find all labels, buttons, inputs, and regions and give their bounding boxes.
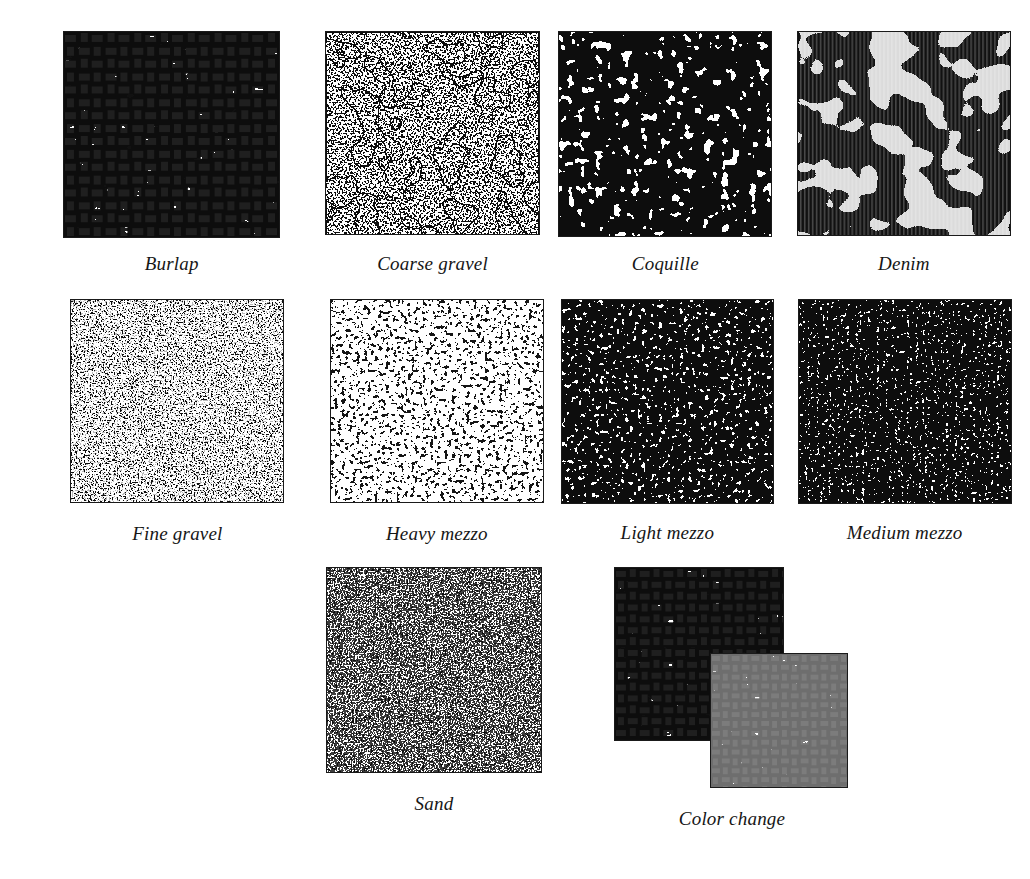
texture-label-medium-mezzo: Medium mezzo <box>847 522 963 544</box>
texture-sample-sheet: Burlap <box>0 0 1030 879</box>
texture-swatch-light-mezzo[interactable] <box>561 299 774 504</box>
heavy-mezzo-pattern-icon <box>331 300 543 502</box>
texture-label-fine-gravel: Fine gravel <box>132 523 222 545</box>
coquille-pattern-icon <box>559 32 771 236</box>
texture-cell-burlap[interactable]: Burlap <box>31 31 312 275</box>
texture-swatch-color-change-front[interactable] <box>710 653 848 788</box>
sand-pattern-icon <box>327 568 541 772</box>
texture-label-sand: Sand <box>415 793 454 815</box>
texture-cell-color-change[interactable]: Color change <box>582 567 882 830</box>
texture-cell-coarse-gravel[interactable]: Coarse gravel <box>312 31 553 275</box>
texture-swatch-heavy-mezzo[interactable] <box>330 299 544 503</box>
texture-label-color-change: Color change <box>679 808 785 830</box>
texture-label-denim: Denim <box>878 253 930 275</box>
row-left-spacer <box>0 299 37 545</box>
texture-label-coarse-gravel: Coarse gravel <box>377 253 488 275</box>
texture-cell-heavy-mezzo[interactable]: Heavy mezzo <box>318 299 555 545</box>
texture-label-burlap: Burlap <box>145 253 199 275</box>
texture-cell-sand[interactable]: Sand <box>286 567 582 830</box>
texture-swatch-sand[interactable] <box>326 567 542 773</box>
texture-swatch-medium-mezzo[interactable] <box>798 299 1012 504</box>
texture-swatch-burlap[interactable] <box>63 31 280 238</box>
medium-mezzo-pattern-icon <box>799 300 1011 503</box>
coarse-gravel-pattern-icon <box>326 32 539 234</box>
texture-swatch-denim[interactable] <box>797 31 1011 236</box>
texture-swatch-coquille[interactable] <box>558 31 772 237</box>
texture-row-2: Fine gravel <box>0 275 1030 545</box>
color-change-stack <box>614 567 850 789</box>
burlap-pattern-icon <box>64 32 279 237</box>
light-mezzo-pattern-icon <box>562 300 773 503</box>
burlap-pattern-icon <box>711 654 847 787</box>
texture-cell-denim[interactable]: Denim <box>778 31 1030 275</box>
denim-pattern-icon <box>798 32 1010 235</box>
row-left-spacer <box>0 567 286 830</box>
texture-row-3: Sand <box>0 545 1030 830</box>
texture-label-light-mezzo: Light mezzo <box>621 522 715 544</box>
row-left-spacer <box>0 31 31 275</box>
texture-cell-fine-gravel[interactable]: Fine gravel <box>37 299 319 545</box>
texture-cell-light-mezzo[interactable]: Light mezzo <box>556 299 780 545</box>
texture-cell-coquille[interactable]: Coquille <box>553 31 778 275</box>
texture-label-coquille: Coquille <box>632 253 699 275</box>
texture-label-heavy-mezzo: Heavy mezzo <box>386 523 488 545</box>
texture-cell-medium-mezzo[interactable]: Medium mezzo <box>779 299 1030 545</box>
texture-swatch-fine-gravel[interactable] <box>70 299 284 503</box>
texture-swatch-coarse-gravel[interactable] <box>325 31 540 235</box>
texture-row-1: Burlap <box>0 0 1030 275</box>
fine-gravel-pattern-icon <box>71 300 283 502</box>
